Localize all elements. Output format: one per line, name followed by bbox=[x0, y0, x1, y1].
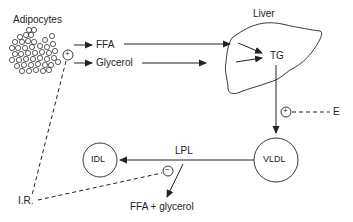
label-ffa: FFA bbox=[96, 40, 114, 50]
label-idl: IDL bbox=[91, 155, 105, 164]
label-insulin-resistance: I.R. bbox=[18, 196, 34, 206]
label-liver: Liver bbox=[253, 9, 275, 19]
label-tg: TG bbox=[270, 51, 284, 61]
arrow-ffa-tg bbox=[238, 43, 262, 53]
adipocyte-cluster-icon bbox=[9, 27, 60, 73]
minus-label-lpl: − bbox=[165, 166, 170, 174]
label-estrogen: E bbox=[333, 107, 340, 117]
arrow-glycerol-tg bbox=[236, 58, 262, 62]
label-lpl: LPL bbox=[175, 146, 193, 156]
label-ffa-glycerol: FFA + glycerol bbox=[130, 202, 194, 212]
label-vldl: VLDL bbox=[263, 155, 286, 164]
plus-label-estrogen: + bbox=[283, 107, 288, 115]
plus-label-adipocytes: + bbox=[65, 50, 70, 58]
diagram-canvas bbox=[0, 0, 353, 222]
dashed-line-ir-adipocytes bbox=[32, 61, 66, 195]
label-glycerol: Glycerol bbox=[96, 58, 133, 68]
label-adipocytes: Adipocytes bbox=[13, 15, 62, 25]
